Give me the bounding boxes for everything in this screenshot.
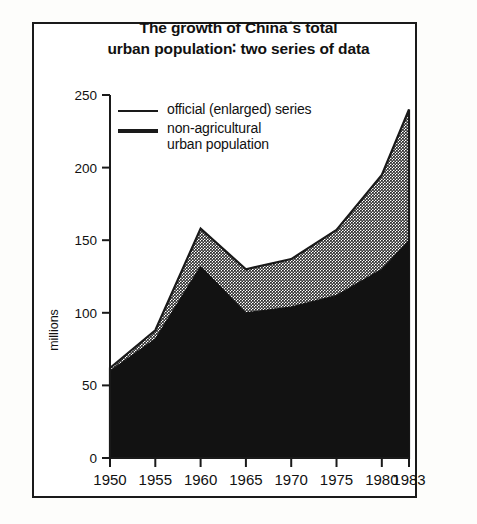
chart-plot-area: 050100150200250 195019551960196519701975… — [0, 0, 477, 524]
x-axis-ticks: 19501955196019651970197519801983 — [93, 458, 425, 488]
chart-svg: 050100150200250 195019551960196519701975… — [0, 0, 477, 524]
y-tick-label: 200 — [74, 161, 97, 176]
x-tick-label: 1955 — [139, 471, 172, 488]
legend-label-official: official (enlarged) series — [167, 101, 311, 117]
x-tick-label: 1970 — [275, 471, 308, 488]
x-tick-label: 1983 — [392, 471, 425, 488]
x-tick-label: 1965 — [229, 471, 262, 488]
y-tick-label: 250 — [74, 88, 97, 103]
x-tick-label: 1960 — [184, 471, 217, 488]
y-tick-label: 50 — [82, 378, 97, 393]
chart-legend: official (enlarged) series non-agricultu… — [118, 101, 368, 155]
y-tick-label: 0 — [89, 451, 97, 466]
y-axis-ticks: 050100150200250 — [74, 88, 110, 466]
legend-label-non-agricultural: non-agricultural urban population — [167, 120, 269, 152]
y-tick-label: 100 — [74, 306, 97, 321]
legend-entry-official: official (enlarged) series — [118, 101, 368, 117]
y-axis-label: millions — [47, 309, 61, 351]
legend-swatch-line-icon — [118, 110, 158, 112]
legend-entry-non-agricultural: non-agricultural urban population — [118, 120, 368, 152]
x-tick-label: 1950 — [93, 471, 126, 488]
x-tick-label: 1975 — [320, 471, 353, 488]
y-tick-label: 150 — [74, 233, 97, 248]
legend-swatch-thick-line-icon — [118, 129, 158, 133]
